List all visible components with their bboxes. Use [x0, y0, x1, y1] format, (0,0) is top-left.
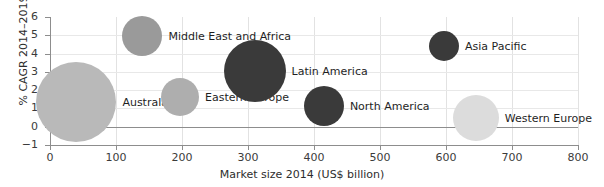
bubble-marker[interactable]: [224, 40, 286, 102]
y-tick: [45, 35, 50, 36]
x-tick: [380, 145, 381, 150]
zero-line: [50, 127, 578, 128]
bubble-marker[interactable]: [453, 95, 499, 141]
x-tick-label: 600: [426, 152, 466, 163]
bubble-marker[interactable]: [304, 86, 344, 126]
x-tick-label: 700: [492, 152, 532, 163]
x-tick-label: 200: [162, 152, 202, 163]
x-tick-label: 400: [294, 152, 334, 163]
bubble-label: North America: [350, 100, 430, 111]
bubble-label: Middle East and Africa: [168, 31, 291, 42]
x-tick: [182, 145, 183, 150]
bubble-marker[interactable]: [36, 62, 116, 142]
gridline-vertical: [578, 17, 579, 145]
bubble-marker[interactable]: [429, 31, 459, 61]
x-tick: [512, 145, 513, 150]
bubble-label: Asia Pacific: [465, 41, 527, 52]
x-tick-label: 800: [558, 152, 598, 163]
bubble-label: Latin America: [292, 65, 368, 76]
x-tick: [50, 145, 51, 150]
x-axis-title: Market size 2014 (US$ billion): [0, 168, 604, 181]
bubble-marker[interactable]: [161, 78, 199, 116]
bubble-marker[interactable]: [122, 16, 162, 56]
x-tick-label: 100: [96, 152, 136, 163]
y-axis-title: % CAGR 2014–2019: [17, 0, 30, 121]
x-tick: [116, 145, 117, 150]
x-tick: [248, 145, 249, 150]
gridline-horizontal: [50, 54, 578, 55]
y-tick: [45, 17, 50, 18]
x-tick: [314, 145, 315, 150]
y-tick: [45, 54, 50, 55]
x-tick: [446, 145, 447, 150]
bubble-label: Western Europe: [505, 112, 592, 123]
y-tick-label: −1: [16, 139, 38, 150]
x-tick-label: 0: [30, 152, 70, 163]
bubble-chart: −10123456 0100200300400500600700800 % CA…: [0, 0, 604, 187]
x-tick-label: 500: [360, 152, 400, 163]
x-tick: [578, 145, 579, 150]
x-tick-label: 300: [228, 152, 268, 163]
y-tick-label: 0: [16, 121, 38, 132]
